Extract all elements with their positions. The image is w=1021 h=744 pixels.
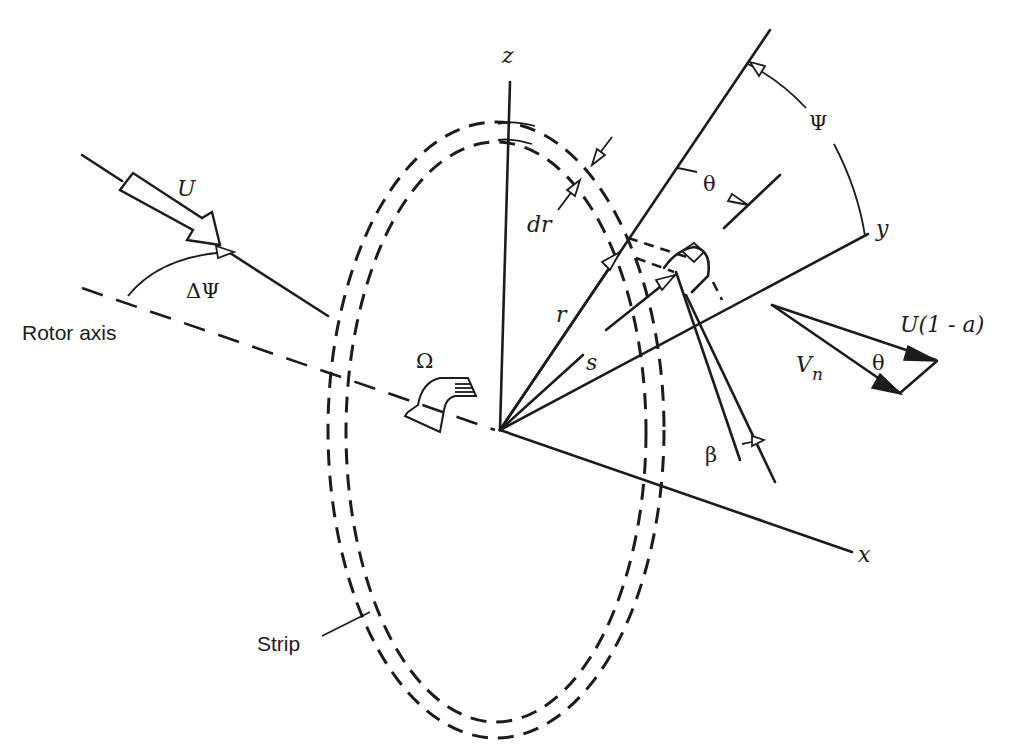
x-axis-label: x <box>858 542 871 567</box>
theta-arrowhead <box>728 194 748 205</box>
normal-velocity-subscript: n <box>812 364 823 384</box>
rotor-axis-label: Rotor axis <box>22 321 117 344</box>
strip-leader-line <box>322 612 370 636</box>
psi-arrowhead <box>750 62 765 76</box>
r-arrowhead <box>602 252 620 270</box>
rotation-label: Ω <box>416 349 433 373</box>
radius-label: r <box>556 302 568 327</box>
pitch-angle-label: θ <box>703 172 716 196</box>
z-axis-label: z <box>501 43 514 68</box>
z-axis-ring-arc <box>498 122 535 126</box>
cone-line-2 <box>686 295 775 482</box>
wind-speed-label: U <box>177 176 197 201</box>
strip-inner-ring <box>346 142 646 722</box>
span-position-label: s <box>586 350 597 375</box>
cone-angle-label: β <box>705 443 717 467</box>
strip-outer-ring <box>328 122 664 738</box>
normal-velocity-label: Vn <box>796 352 823 384</box>
dr-arrow-outer-head <box>592 149 605 165</box>
wind-hollow-arrow <box>120 173 220 245</box>
y-axis-label: y <box>875 216 889 241</box>
rotor-geometry-diagram: z y x U ΔΨ Rotor axis Ω dr r s Ψ θ β U(1… <box>0 0 1021 744</box>
x-axis <box>500 430 852 552</box>
theta-pitch-tick <box>678 168 697 172</box>
triangle-angle-label: θ <box>872 351 885 375</box>
wind-line-lower <box>230 253 328 316</box>
z-axis <box>500 82 510 430</box>
yaw-angle-label: ΔΨ <box>186 279 220 303</box>
azimuth-label: Ψ <box>809 111 827 135</box>
strip-rings <box>328 122 664 738</box>
r-vector <box>500 252 620 430</box>
wind-line-upper <box>82 155 122 181</box>
yaw-arrowhead <box>216 246 234 258</box>
strip-label: Strip <box>257 632 300 655</box>
strip-width-label: dr <box>527 212 553 237</box>
cone-line-1 <box>676 272 740 460</box>
psi-arc-lower <box>834 144 865 236</box>
blade-element <box>628 238 722 300</box>
axial-velocity-label: U(1 - a) <box>900 312 984 337</box>
omega-rotation-icon <box>405 378 476 432</box>
